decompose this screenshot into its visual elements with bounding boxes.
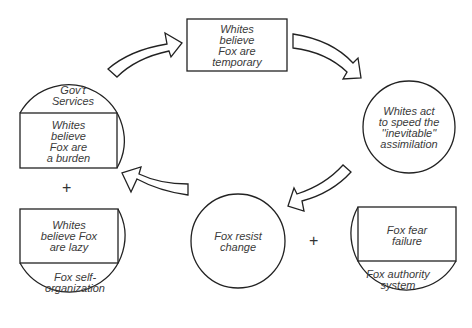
arrow-up-left xyxy=(122,167,188,195)
label-govt-services: Gov't Services xyxy=(38,85,108,107)
label-fox-lazy: Whites believe Fox are lazy xyxy=(20,220,118,253)
arrow-up-right xyxy=(108,33,182,77)
label-fox-resist-change: Fox resist change xyxy=(196,231,280,253)
arrow-down-left xyxy=(288,165,351,211)
label-fox-temporary: Whites believe Fox are temporary xyxy=(187,24,287,68)
arrow-down-right xyxy=(293,34,361,79)
plus-sign-left: + xyxy=(62,180,71,196)
label-speed-assimilation: Whites act to speed the ''inevitable'' a… xyxy=(364,106,454,150)
plus-sign-bottom: + xyxy=(309,233,318,249)
label-fox-authority-system: Fox authority system xyxy=(348,269,448,291)
label-fox-burden: Whites believe Fox are a burden xyxy=(20,120,117,164)
label-fox-fear-failure: Fox fear failure xyxy=(358,225,456,247)
label-fox-self-organization: Fox self- organization xyxy=(30,272,120,294)
